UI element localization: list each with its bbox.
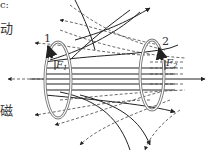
loop-1-label: 1 [44,32,51,45]
solid-field-lines [30,0,205,150]
loop-2-label: 2 [162,35,169,48]
current-loop-1 [45,42,71,118]
force-1-label: F1 [55,59,67,72]
magnetic-field-diagram: 1 2 F1 F2 [0,0,211,159]
dashed-field-lines [8,5,185,150]
